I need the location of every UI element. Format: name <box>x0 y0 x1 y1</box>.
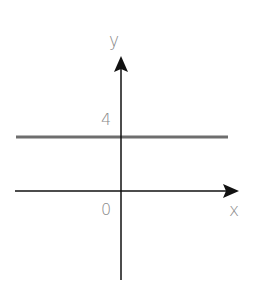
y-axis-label: y <box>109 32 119 49</box>
y-intercept-label: 4 <box>101 112 111 128</box>
x-axis-label: x <box>229 202 239 219</box>
origin-label: 0 <box>101 202 111 218</box>
coordinate-plane <box>0 0 254 286</box>
